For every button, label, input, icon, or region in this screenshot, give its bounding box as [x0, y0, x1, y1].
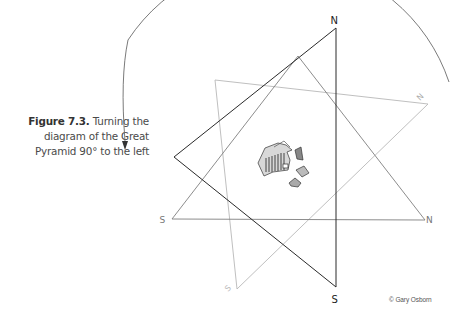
pyramid-rotation-diagram: N S S N N S — [0, 0, 461, 315]
image-credit: © Gary Osborn — [389, 296, 432, 303]
black-triangle-bottom-label: S — [332, 294, 338, 305]
pyramid-plan-icon — [258, 141, 309, 187]
faint-triangle-bottom-label: S — [223, 283, 233, 293]
rotation-arrow-icon — [122, 0, 449, 150]
black-triangle — [174, 28, 336, 287]
gray-triangle-right-label: N — [426, 215, 433, 225]
faint-triangle — [215, 80, 428, 289]
gray-triangle-left-label: S — [160, 215, 166, 225]
black-triangle-top-label: N — [331, 15, 338, 26]
faint-triangle-top-label: N — [415, 92, 426, 103]
gray-triangle — [172, 56, 425, 220]
